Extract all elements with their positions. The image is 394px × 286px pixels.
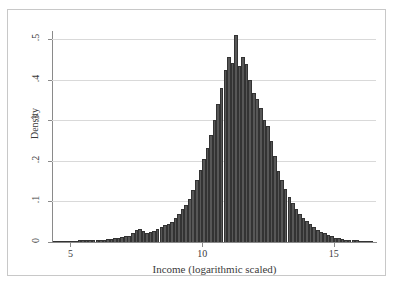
y-tick-label-.3: .3 xyxy=(30,110,41,128)
x-tick-mark xyxy=(70,243,71,247)
histogram-bar xyxy=(369,241,373,242)
x-axis-line xyxy=(52,242,377,243)
figure-frame: Density Income (logarithmic scaled) 0.1.… xyxy=(7,9,386,276)
y-tick-label-0: 0 xyxy=(30,232,41,250)
x-axis-title: Income (logarithmic scaled) xyxy=(52,263,377,275)
y-tick-label-.4: .4 xyxy=(30,69,41,87)
x-tick-mark xyxy=(202,243,203,247)
y-tick-label-.1: .1 xyxy=(30,191,41,209)
y-tick-label-.5: .5 xyxy=(30,29,41,47)
plot-area xyxy=(52,31,376,242)
y-tick-mark xyxy=(48,242,52,243)
x-tick-label-15: 15 xyxy=(321,248,347,259)
x-tick-mark xyxy=(334,243,335,247)
histogram-figure: Density Income (logarithmic scaled) 0.1.… xyxy=(0,0,394,286)
y-tick-label-.2: .2 xyxy=(30,150,41,168)
x-tick-label-5: 5 xyxy=(57,248,83,259)
x-tick-label-10: 10 xyxy=(189,248,215,259)
gridline-y-.5 xyxy=(52,39,376,40)
gridline-y-.4 xyxy=(52,80,376,81)
